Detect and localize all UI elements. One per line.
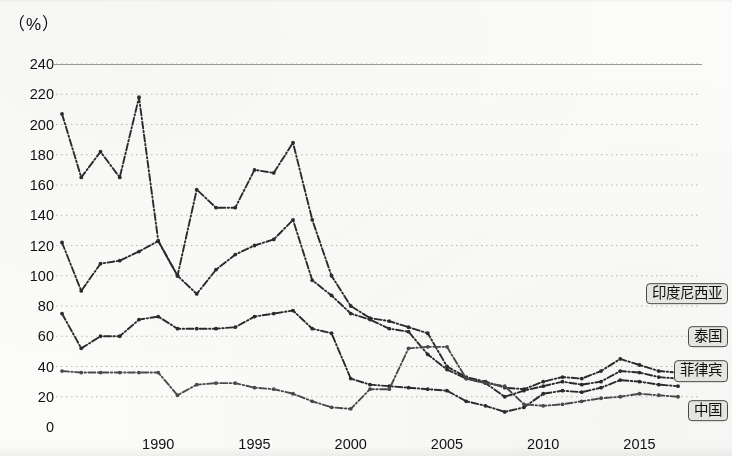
data-point	[445, 389, 449, 393]
y-axis-tick-label: 160	[30, 178, 54, 193]
data-point	[214, 268, 218, 272]
x-axis-baseline	[54, 64, 702, 65]
legend-item-china[interactable]: 中国	[688, 400, 728, 422]
y-axis-tick-label: 0	[46, 420, 54, 435]
data-point	[503, 384, 507, 388]
data-point	[253, 244, 257, 248]
data-point	[561, 389, 565, 393]
chart-canvas	[62, 64, 678, 427]
data-point	[426, 331, 430, 335]
data-point	[580, 383, 584, 387]
data-point	[253, 386, 257, 390]
chart-figure: （%） 020406080100120140160180200220240 19…	[0, 0, 732, 456]
data-point	[657, 393, 661, 397]
data-point	[638, 392, 642, 396]
data-point	[272, 312, 276, 316]
legend-item-indonesia[interactable]: 印度尼西亚	[646, 283, 728, 305]
data-point	[60, 312, 64, 316]
data-point	[599, 369, 603, 373]
data-point	[407, 325, 411, 329]
data-point	[368, 383, 372, 387]
data-point	[407, 386, 411, 390]
y-axis-tick-label: 100	[30, 269, 54, 284]
series-china	[60, 345, 680, 411]
data-point	[310, 218, 314, 222]
y-axis-tick-label: 240	[30, 57, 54, 72]
data-point	[233, 206, 237, 210]
data-point	[195, 188, 199, 192]
data-point	[60, 369, 64, 373]
data-point	[618, 395, 622, 399]
y-axis-tick-label: 180	[30, 148, 54, 163]
data-point	[541, 384, 545, 388]
data-point	[426, 345, 430, 349]
data-point	[561, 402, 565, 406]
data-point	[137, 371, 141, 375]
data-point	[137, 318, 141, 322]
data-point	[330, 294, 334, 298]
data-point	[580, 390, 584, 394]
data-point	[387, 327, 391, 331]
data-point	[445, 368, 449, 372]
data-point	[137, 250, 141, 254]
data-point	[503, 395, 507, 399]
data-point	[618, 378, 622, 382]
data-point	[118, 176, 122, 180]
data-point	[464, 399, 468, 403]
data-point	[387, 319, 391, 323]
data-point	[195, 327, 199, 331]
data-point	[310, 278, 314, 282]
legend-item-thailand[interactable]: 泰国	[688, 326, 728, 348]
data-point	[272, 171, 276, 175]
page-edge-top	[0, 0, 732, 2]
data-point	[541, 380, 545, 384]
data-point	[464, 377, 468, 381]
data-point	[99, 262, 103, 266]
data-point	[99, 150, 103, 154]
data-point	[368, 387, 372, 391]
data-point	[79, 176, 83, 180]
page-edge-bottom	[0, 446, 732, 456]
data-point	[60, 241, 64, 245]
data-point	[214, 327, 218, 331]
data-point	[599, 386, 603, 390]
data-point	[79, 346, 83, 350]
data-point	[638, 380, 642, 384]
data-point	[561, 380, 565, 384]
data-point	[618, 357, 622, 361]
data-point	[445, 345, 449, 349]
data-point	[349, 377, 353, 381]
data-point	[60, 112, 64, 116]
data-point	[580, 377, 584, 381]
data-point	[503, 410, 507, 414]
data-point	[233, 325, 237, 329]
data-point	[79, 371, 83, 375]
data-point	[676, 384, 680, 388]
data-point	[541, 404, 545, 408]
data-point	[99, 371, 103, 375]
data-point	[79, 289, 83, 293]
data-point	[349, 312, 353, 316]
data-point	[638, 363, 642, 367]
data-point	[233, 381, 237, 385]
data-point	[349, 304, 353, 308]
series-line	[62, 220, 678, 397]
data-point	[156, 239, 160, 243]
data-point	[195, 292, 199, 296]
data-point	[118, 259, 122, 263]
data-point	[330, 405, 334, 409]
data-point	[176, 327, 180, 331]
data-point	[407, 346, 411, 350]
data-point	[156, 371, 160, 375]
data-point	[330, 331, 334, 335]
data-point	[310, 327, 314, 331]
data-point	[618, 369, 622, 373]
data-point	[214, 206, 218, 210]
legend-item-philippines[interactable]: 菲律宾	[674, 360, 728, 382]
y-axis-tick-label: 220	[30, 87, 54, 102]
data-point	[156, 315, 160, 319]
data-point	[176, 274, 180, 278]
data-point	[214, 381, 218, 385]
data-point	[253, 315, 257, 319]
y-axis-tick-label: 120	[30, 238, 54, 253]
